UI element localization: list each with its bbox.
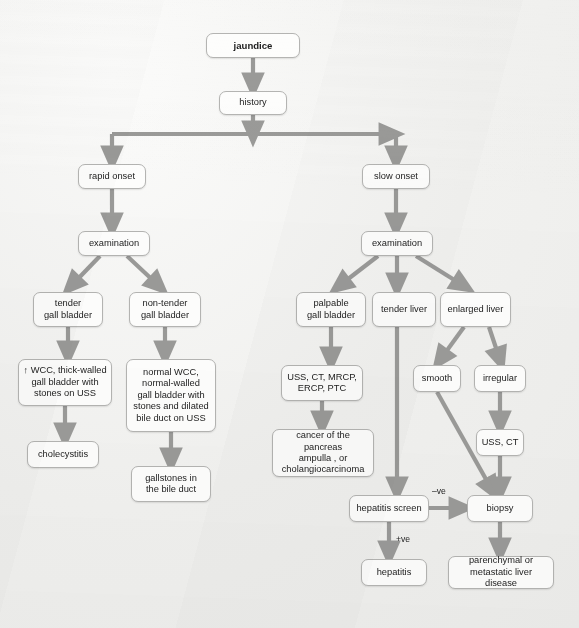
node-palpable_gb[interactable]: palpable gall bladder xyxy=(296,292,366,327)
node-uss_ct_mrcp[interactable]: USS, CT, MRCP, ERCP, PTC xyxy=(281,365,363,401)
node-exam_right[interactable]: examination xyxy=(361,231,433,256)
flowchart-canvas: jaundicehistoryrapid onsetslow onsetexam… xyxy=(0,0,579,628)
node-uss_ct[interactable]: USS, CT xyxy=(476,429,524,456)
node-tender_gb[interactable]: tender gall bladder xyxy=(33,292,103,327)
edge-label-pos: +ve xyxy=(396,534,410,544)
node-cholecystitis[interactable]: cholecystitis xyxy=(27,441,99,468)
node-wcc_thick[interactable]: ↑ WCC, thick-walled gall bladder with st… xyxy=(18,359,112,406)
node-nontender_gb[interactable]: non-tender gall bladder xyxy=(129,292,201,327)
node-cancer[interactable]: cancer of the pancreas ampulla , or chol… xyxy=(272,429,374,477)
node-history[interactable]: history xyxy=(219,91,287,115)
node-biopsy[interactable]: biopsy xyxy=(467,495,533,522)
node-hep_screen[interactable]: hepatitis screen xyxy=(349,495,429,522)
node-irregular[interactable]: irregular xyxy=(474,365,526,392)
node-enlarged_liver[interactable]: enlarged liver xyxy=(440,292,511,327)
node-hepatitis[interactable]: hepatitis xyxy=(361,559,427,586)
node-exam_left[interactable]: examination xyxy=(78,231,150,256)
node-tender_liver[interactable]: tender liver xyxy=(372,292,436,327)
edge-label-neg: –ve xyxy=(432,486,446,496)
node-normal_wcc[interactable]: normal WCC, normal-walled gall bladder w… xyxy=(126,359,216,432)
node-jaundice[interactable]: jaundice xyxy=(206,33,300,58)
node-slow_onset[interactable]: slow onset xyxy=(362,164,430,189)
node-parenchymal[interactable]: parenchymal or metastatic liver disease xyxy=(448,556,554,589)
node-rapid_onset[interactable]: rapid onset xyxy=(78,164,146,189)
node-smooth[interactable]: smooth xyxy=(413,365,461,392)
node-gallstones[interactable]: gallstones in the bile duct xyxy=(131,466,211,502)
